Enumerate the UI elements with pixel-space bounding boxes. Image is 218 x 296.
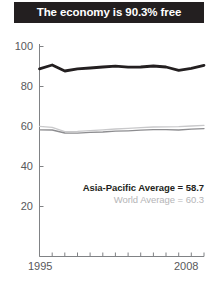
y-tick-label-40: 40 <box>3 161 33 172</box>
series-line-economy <box>40 65 205 71</box>
chart-legend: Asia-Pacific Average = 58.7 World Averag… <box>54 182 204 206</box>
legend-item-asia-pacific-average: Asia-Pacific Average = 58.7 <box>54 182 204 194</box>
y-tick-label-100: 100 <box>3 41 33 52</box>
x-tick-label-start: 1995 <box>28 261 52 272</box>
y-tick-label-80: 80 <box>3 81 33 92</box>
y-tick-label-60: 60 <box>3 121 33 132</box>
economic-freedom-chart: The economy is 90.3% free <box>0 0 218 296</box>
legend-item-world-average: World Average = 60.3 <box>54 194 204 206</box>
x-tick-marks <box>40 253 205 257</box>
x-tick-label-end: 2008 <box>174 261 198 272</box>
y-tick-label-20: 20 <box>3 201 33 212</box>
